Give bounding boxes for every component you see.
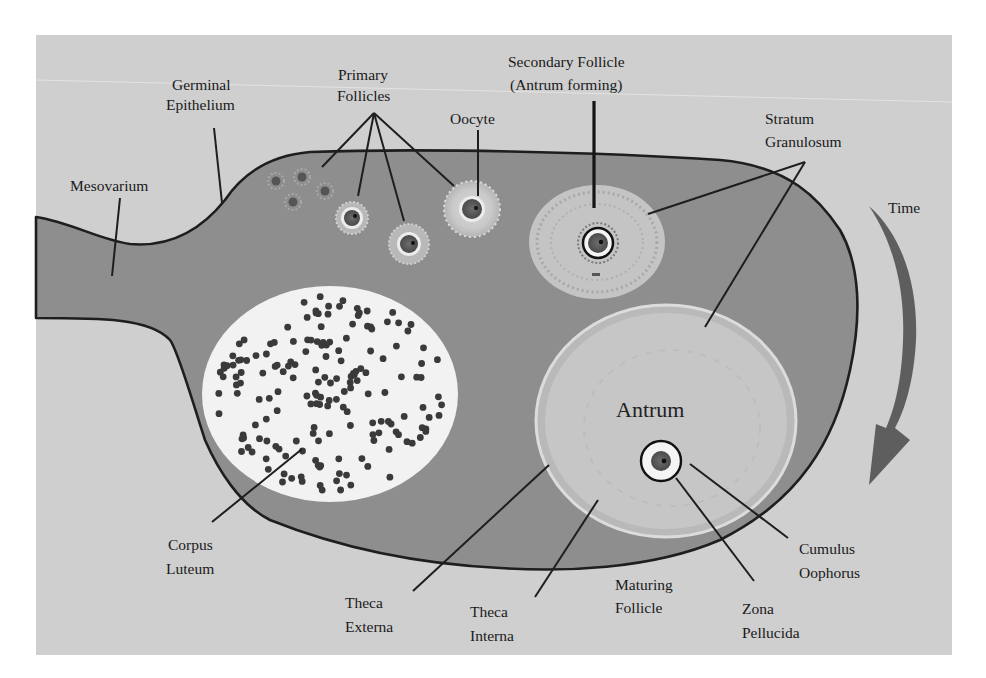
primary-follicle-1 [336,202,368,234]
growing-follicle [444,181,500,237]
label-antrum: Antrum [616,397,684,422]
primary-follicle-2 [389,224,429,264]
secondary-follicle [529,185,665,299]
label-mesovarium: Mesovarium [70,177,148,194]
label-oocyte: Oocyte [450,110,495,127]
ovary-diagram: Mesovarium Germinal Epithelium Primary F… [0,0,986,678]
corpus-luteum [202,286,458,502]
label-time: Time [888,199,920,216]
